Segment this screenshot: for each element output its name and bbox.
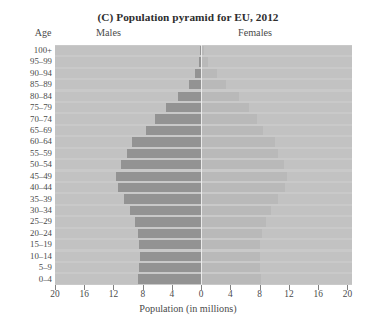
- population-pyramid-figure: (C) Population pyramid for EU, 2012 Age …: [0, 0, 376, 331]
- age-tick-label: 90–94: [14, 68, 52, 79]
- x-tick-label: 0: [186, 289, 216, 299]
- age-tick-labels: 100+95–9990–9485–8980–8475–7970–7465–696…: [14, 45, 52, 285]
- bar-male: [189, 80, 201, 89]
- legend-label-males: Males: [96, 27, 121, 38]
- age-tick-label: 20–24: [14, 228, 52, 239]
- bar-male: [121, 160, 201, 169]
- age-tick-label: 15–19: [14, 239, 52, 250]
- x-tick-label: 12: [98, 289, 128, 299]
- pyramid-row: [55, 228, 352, 239]
- bar-female: [201, 183, 284, 192]
- center-axis-line: [201, 45, 202, 285]
- bar-female: [201, 206, 271, 215]
- age-tick-label: 55–59: [14, 148, 52, 159]
- x-axis-title: Population (in millions): [0, 303, 376, 314]
- bar-female: [201, 114, 257, 123]
- pyramid-row: [55, 262, 352, 273]
- age-tick-label: 100+: [14, 45, 52, 56]
- pyramid-row: [55, 56, 352, 67]
- pyramid-row: [55, 216, 352, 227]
- chart-title: (C) Population pyramid for EU, 2012: [0, 11, 376, 23]
- age-tick-label: 30–34: [14, 205, 52, 216]
- pyramid-row: [55, 159, 352, 170]
- pyramid-row: [55, 182, 352, 193]
- bar-female: [201, 194, 278, 203]
- x-tick-label: 20: [40, 289, 70, 299]
- bar-female: [201, 263, 260, 272]
- x-tick-label: 4: [215, 289, 245, 299]
- x-tick-label: 16: [303, 289, 333, 299]
- age-tick-label: 35–39: [14, 194, 52, 205]
- age-tick-label: 0–4: [14, 274, 52, 285]
- pyramid-row: [55, 45, 352, 56]
- x-tick-label: 4: [157, 289, 187, 299]
- legend-label-females: Females: [238, 27, 272, 38]
- bar-female: [201, 229, 262, 238]
- age-tick-label: 80–84: [14, 91, 52, 102]
- bar-male: [118, 183, 201, 192]
- bar-female: [201, 137, 275, 146]
- pyramid-row: [55, 194, 352, 205]
- bar-male: [146, 126, 202, 135]
- pyramid-row: [55, 125, 352, 136]
- bar-male: [166, 103, 201, 112]
- pyramid-row: [55, 171, 352, 182]
- chart-title-text: Population pyramid for EU, 2012: [113, 11, 278, 23]
- age-axis-title: Age: [26, 27, 60, 38]
- x-tick-label: 20: [332, 289, 362, 299]
- bar-male: [135, 217, 202, 226]
- x-axis-tick-labels: 20161284048121620: [0, 289, 376, 302]
- pyramid-row: [55, 205, 352, 216]
- pyramid-row: [55, 136, 352, 147]
- x-tick-label: 8: [128, 289, 158, 299]
- bar-male: [138, 274, 201, 283]
- age-tick-label: 70–74: [14, 114, 52, 125]
- x-tick-label: 8: [245, 289, 275, 299]
- age-tick-label: 85–89: [14, 79, 52, 90]
- bar-male: [138, 229, 201, 238]
- age-tick-label: 45–49: [14, 171, 52, 182]
- bar-female: [201, 149, 278, 158]
- bar-male: [116, 172, 202, 181]
- pyramid-row: [55, 148, 352, 159]
- age-tick-label: 65–69: [14, 125, 52, 136]
- bar-male: [140, 252, 201, 261]
- pyramid-row: [55, 91, 352, 102]
- chart-header-row: Age Males Females: [0, 27, 376, 42]
- age-tick-label: 60–64: [14, 136, 52, 147]
- plot-area: [55, 45, 352, 285]
- pyramid-row: [55, 79, 352, 90]
- bar-male: [155, 114, 201, 123]
- pyramid-row: [55, 68, 352, 79]
- bar-female: [201, 274, 261, 283]
- chart-title-prefix: (C): [97, 11, 113, 23]
- bar-male: [127, 149, 201, 158]
- pyramid-row: [55, 114, 352, 125]
- bar-female: [201, 103, 249, 112]
- bar-female: [201, 172, 287, 181]
- pyramid-row: [55, 251, 352, 262]
- pyramid-row: [55, 239, 352, 250]
- age-tick-label: 25–29: [14, 216, 52, 227]
- bar-female: [201, 126, 263, 135]
- age-tick-label: 40–44: [14, 182, 52, 193]
- bar-male: [139, 240, 201, 249]
- age-tick-label: 5–9: [14, 262, 52, 273]
- bar-male: [132, 137, 201, 146]
- pyramid-row: [55, 274, 352, 285]
- x-tick-label: 12: [274, 289, 304, 299]
- bar-female: [201, 92, 239, 101]
- bar-male: [139, 263, 201, 272]
- bar-female: [201, 217, 266, 226]
- age-tick-label: 75–79: [14, 102, 52, 113]
- bar-male: [124, 194, 201, 203]
- bar-female: [201, 252, 259, 261]
- bar-male: [130, 206, 201, 215]
- bar-female: [201, 80, 226, 89]
- bar-male: [178, 92, 201, 101]
- bar-female: [201, 160, 284, 169]
- pyramid-row: [55, 102, 352, 113]
- age-tick-label: 50–54: [14, 159, 52, 170]
- age-tick-label: 10–14: [14, 251, 52, 262]
- bar-female: [201, 69, 216, 78]
